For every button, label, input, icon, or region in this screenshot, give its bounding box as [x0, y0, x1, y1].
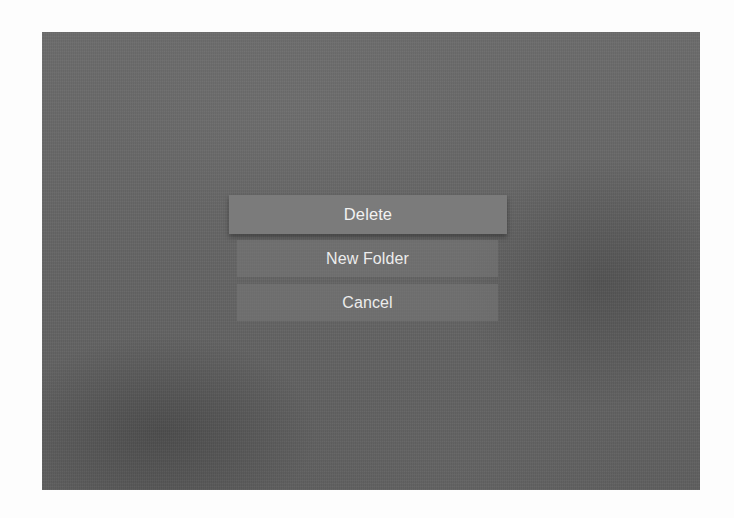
new-folder-button[interactable]: New Folder	[237, 240, 498, 277]
delete-button-label: Delete	[344, 205, 392, 224]
tv-screen: Delete New Folder Cancel	[42, 32, 700, 490]
cancel-button[interactable]: Cancel	[237, 284, 498, 321]
new-folder-button-label: New Folder	[326, 250, 409, 268]
cancel-button-label: Cancel	[342, 294, 392, 312]
action-sheet: Delete New Folder Cancel	[42, 32, 700, 490]
delete-button[interactable]: Delete	[229, 195, 507, 234]
